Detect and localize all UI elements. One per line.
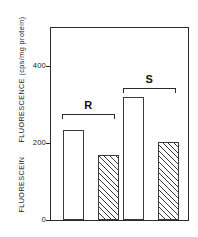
bar-r-hatched [98,155,119,220]
y-axis-title-container: FLUORESCEINFLUORESCENCE (cps/mg protein) [0,0,26,237]
group-label-s: S [123,73,176,85]
group-label-r: R [62,99,115,111]
group-bracket-r [62,114,115,119]
y-tick-label-0: 0 [24,215,46,224]
group-bracket-s [123,88,176,93]
y-tick-label-400: 400 [24,61,46,70]
plot-area [50,27,189,221]
y-axis-tick-labels: 400 200 0 [24,0,46,237]
bar-s-open [123,97,144,220]
bar-r-open [63,130,84,220]
chart-figure: FLUORESCEINFLUORESCENCE (cps/mg protein)… [0,0,198,237]
y-tick-label-200: 200 [24,138,46,147]
bar-s-hatched [158,142,179,220]
